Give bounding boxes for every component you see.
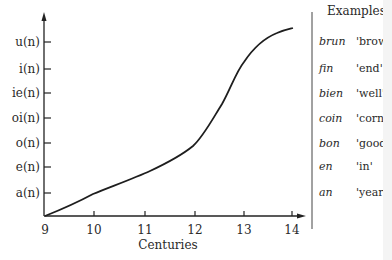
x-tick-label: 14: [284, 223, 299, 237]
y-tick-label: e(n): [16, 160, 40, 174]
example-gloss: 'well': [356, 87, 385, 100]
y-tick-label: a(n): [16, 186, 40, 200]
y-tick-label: ie(n): [12, 86, 40, 100]
y-ticks: [44, 42, 51, 193]
page-edge-strip: [383, 0, 392, 260]
legend-row: coin'corn: [319, 112, 384, 125]
legend-row: en'in': [319, 160, 373, 173]
legend-title: Examples: [327, 4, 386, 18]
legend-row: an'year': [319, 186, 387, 199]
example-word: coin: [319, 112, 356, 125]
x-tick-label: 11: [137, 223, 152, 237]
x-axis-title: Centuries: [138, 238, 197, 252]
x-tick-label: 12: [187, 223, 202, 237]
x-tick-label: 9: [41, 223, 49, 237]
example-word: en: [319, 160, 356, 173]
example-word: bon: [319, 137, 356, 150]
x-axis-arrow-icon: [297, 214, 306, 219]
example-word: brun: [319, 35, 356, 48]
data-line: [45, 28, 293, 216]
legend-row: fin'end': [319, 62, 383, 75]
example-word: an: [319, 186, 356, 199]
legend-row: bon'good: [319, 137, 386, 150]
example-gloss: 'good: [356, 137, 386, 150]
y-tick-label: oi(n): [12, 111, 40, 125]
example-word: bien: [319, 87, 356, 100]
example-word: fin: [319, 62, 356, 75]
x-ticks: [94, 211, 292, 216]
y-tick-label: i(n): [19, 62, 40, 76]
legend-row: brun'brow: [319, 35, 387, 48]
x-tick-label: 10: [86, 223, 101, 237]
legend-row: bien'well': [319, 87, 385, 100]
example-gloss: 'in': [356, 160, 373, 173]
x-tick-label: 13: [236, 223, 251, 237]
y-axis-arrow-icon: [42, 12, 47, 21]
example-gloss: 'corn: [356, 112, 384, 125]
example-gloss: 'end': [356, 62, 383, 75]
example-gloss: 'year': [356, 186, 387, 199]
y-tick-label: u(n): [15, 35, 40, 49]
y-tick-label: o(n): [16, 136, 40, 150]
